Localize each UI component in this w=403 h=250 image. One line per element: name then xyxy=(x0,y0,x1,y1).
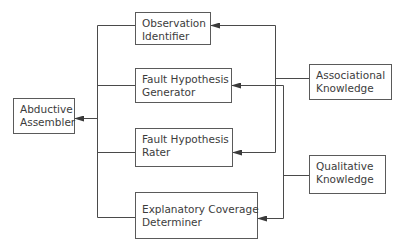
node-abductive-assembler: Abductive Assembler xyxy=(13,98,75,134)
node-explanatory-coverage-determiner: Explanatory Coverage Determiner xyxy=(135,192,258,239)
node-observation-identifier: Observation Identifier xyxy=(135,12,211,45)
node-label-line2: Knowledge xyxy=(316,82,385,95)
node-label-line1: Fault Hypothesis xyxy=(142,133,226,146)
diagram-canvas: Abductive Assembler Observation Identifi… xyxy=(0,0,403,250)
node-fault-hypothesis-generator: Fault Hypothesis Generator xyxy=(135,68,232,103)
node-label-line2: Generator xyxy=(142,86,225,99)
node-label-line2: Assembler xyxy=(20,116,68,129)
node-label-line1: Associational xyxy=(316,69,385,82)
node-label-line1: Qualitative xyxy=(316,160,379,173)
node-associational-knowledge: Associational Knowledge xyxy=(309,64,392,100)
node-qualitative-knowledge: Qualitative Knowledge xyxy=(309,155,386,194)
node-label-line1: Explanatory Coverage xyxy=(142,203,251,216)
node-fault-hypothesis-rater: Fault Hypothesis Rater xyxy=(135,128,233,167)
node-label-line2: Identifier xyxy=(142,30,204,43)
node-label-line2: Determiner xyxy=(142,216,251,229)
node-label-line2: Rater xyxy=(142,146,226,159)
node-label-line1: Observation xyxy=(142,17,204,30)
node-label-line1: Fault Hypothesis xyxy=(142,73,225,86)
node-label-line2: Knowledge xyxy=(316,173,379,186)
node-label-line1: Abductive xyxy=(20,103,68,116)
